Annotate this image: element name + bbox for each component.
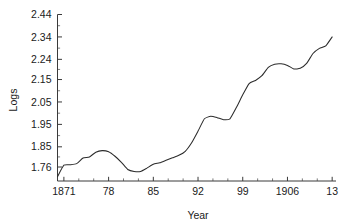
y-tick-label: 2.34 [31,31,52,43]
y-tick-label: 2.24 [31,53,52,65]
x-tick-label: 99 [237,185,249,197]
y-tick-label: 2.44 [31,8,52,20]
y-tick-label: 2.15 [31,73,52,85]
y-tick-label: 1.76 [31,161,52,173]
x-axis-title: Year [187,209,209,221]
y-tick-label: 1.95 [31,118,52,130]
y-tick-label: 1.85 [31,140,52,152]
x-tick-label: 1871 [52,185,76,197]
line-chart: Logs Year 1.761.851.952.052.152.242.342.… [0,0,346,224]
chart-figure: Logs Year 1.761.851.952.052.152.242.342.… [0,0,346,224]
y-axis-title: Logs [7,89,19,112]
x-tick-label: 78 [103,185,115,197]
x-tick-label: 1906 [276,185,300,197]
x-tick-label: 85 [147,185,159,197]
x-tick-label: 92 [192,185,204,197]
y-tick-label: 2.05 [31,96,52,108]
x-tick-label: 13 [326,185,338,197]
